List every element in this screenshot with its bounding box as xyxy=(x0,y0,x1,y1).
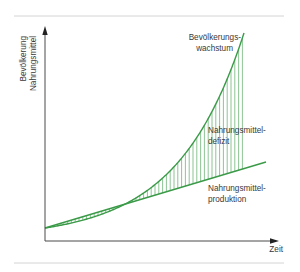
x-axis-arrow-icon xyxy=(270,238,279,243)
deficit-label-line2: defizit xyxy=(208,137,230,146)
x-axis-label: Zeit xyxy=(269,245,283,254)
y-axis-arrow-icon xyxy=(42,26,47,35)
food-label-line1: Nahrungsmittel- xyxy=(208,184,266,193)
deficit-label-line1: Nahrungsmittel- xyxy=(208,126,266,135)
y-axis-label-line1: Bevölkerung xyxy=(19,36,28,82)
population-label-line1: Bevölkerungs- xyxy=(189,33,242,42)
y-axis-label-line2: Nahrungsmittel xyxy=(29,36,38,91)
population-label-line2: wachstum xyxy=(195,44,233,53)
diagram-canvas: Bevölkerung Nahrungsmittel Zeit Bevölker… xyxy=(0,0,300,272)
food-label-line2: produktion xyxy=(208,195,247,204)
